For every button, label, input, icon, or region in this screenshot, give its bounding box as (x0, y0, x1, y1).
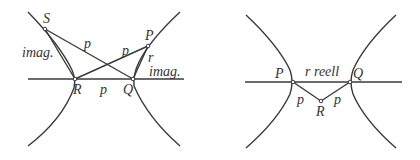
label-P: P (274, 66, 284, 81)
point-Q (131, 77, 135, 81)
label-p-RP: p (121, 43, 129, 58)
label-S: S (43, 11, 50, 26)
point-R (73, 77, 77, 81)
label-P: P (144, 28, 154, 43)
label-imag-right: imag. (149, 64, 181, 79)
label-r-PQ: r (148, 50, 154, 65)
label-imag-left: imag. (22, 45, 54, 60)
label-r-reell: r reell (305, 64, 339, 79)
point-S (43, 27, 47, 31)
point-Q (348, 80, 352, 84)
left-diagram: S P R Q imag. imag. p p p r (22, 11, 184, 146)
label-Q: Q (123, 82, 133, 97)
label-R: R (315, 104, 325, 119)
point-P (146, 44, 150, 48)
label-R: R (72, 82, 82, 97)
label-p-RQ: p (99, 82, 107, 97)
hyperbola-diagrams: S P R Q imag. imag. p p p r P Q R r reel… (0, 0, 420, 160)
point-P (291, 80, 295, 84)
label-p-RQ: p (333, 92, 341, 107)
segment-PQ (133, 46, 148, 79)
label-p-PR: p (296, 92, 304, 107)
right-diagram: P Q R r reell p p (245, 15, 402, 148)
point-R (319, 99, 323, 103)
label-Q: Q (353, 66, 363, 81)
label-p-SQ: p (83, 36, 91, 51)
